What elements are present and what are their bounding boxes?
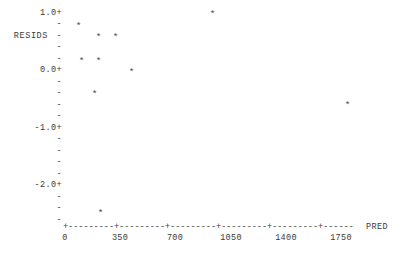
y-axis-tick-row-15: -2.0+ bbox=[0, 180, 62, 191]
data-point: * bbox=[344, 101, 351, 110]
y-axis-tick-label-1.0: 1.0+ bbox=[40, 8, 62, 19]
data-point: * bbox=[112, 33, 119, 42]
y-axis-tick-row-8: - bbox=[0, 100, 62, 111]
y-axis-tick-row-3: - bbox=[0, 42, 62, 53]
y-axis-tick-row-16: - bbox=[0, 192, 62, 203]
x-axis-tick-label-1050: 1050 bbox=[215, 233, 247, 243]
y-axis-tick-row-1: - bbox=[0, 19, 62, 30]
y-axis-tick-row-14: - bbox=[0, 169, 62, 180]
data-point: * bbox=[97, 209, 104, 218]
y-axis-tick-row-5: 0.0+ bbox=[0, 65, 62, 76]
y-axis-tick-row-4: - bbox=[0, 54, 62, 65]
y-axis-tick-row-18: - bbox=[0, 215, 62, 226]
data-point: * bbox=[128, 68, 135, 77]
data-point: * bbox=[75, 22, 82, 31]
y-axis-tick-mark: - bbox=[56, 157, 62, 168]
data-point: * bbox=[209, 10, 216, 19]
y-axis-tick-row-12: - bbox=[0, 146, 62, 157]
x-axis-tick-label-1400: 1400 bbox=[270, 233, 302, 243]
y-axis-tick-row-0: 1.0+ bbox=[0, 8, 62, 19]
y-axis-tick-row-10: -1.0+ bbox=[0, 123, 62, 134]
y-axis-tick-mark: - bbox=[56, 100, 62, 111]
y-axis-tick-mark: - bbox=[56, 169, 62, 180]
y-axis-tick-label-0.0: 0.0+ bbox=[40, 65, 62, 76]
y-axis-tick-label--2.0: -2.0+ bbox=[34, 180, 62, 191]
y-axis-tick-mark: - bbox=[56, 54, 62, 65]
y-axis-tick-mark: - bbox=[56, 192, 62, 203]
x-axis-tick-label-350: 350 bbox=[107, 233, 133, 243]
y-axis-tick-mark: - bbox=[56, 19, 62, 30]
y-axis-tick-row-11: - bbox=[0, 134, 62, 145]
y-axis-tick-label--1.0: -1.0+ bbox=[34, 123, 62, 134]
y-axis-tick-row-7: - bbox=[0, 88, 62, 99]
scatter-plot: 1.0+ - - - - 0.0+ - - - - -1.0+ - - - - … bbox=[0, 0, 405, 262]
y-axis-tick-mark: - bbox=[56, 42, 62, 53]
data-point: * bbox=[78, 57, 85, 66]
y-axis-tick-row-6: - bbox=[0, 77, 62, 88]
y-axis-tick-mark: - bbox=[56, 215, 62, 226]
y-axis-tick-mark: - bbox=[56, 146, 62, 157]
x-axis-tick-label-0: 0 bbox=[52, 233, 78, 243]
y-axis-tick-mark: - bbox=[56, 77, 62, 88]
y-axis-tick-mark: - bbox=[56, 88, 62, 99]
y-axis-tick-mark: - bbox=[56, 111, 62, 122]
x-axis-tick-label-1750: 1750 bbox=[325, 233, 357, 243]
data-point: * bbox=[91, 90, 98, 99]
y-axis-tick-row-17: - bbox=[0, 203, 62, 214]
y-axis-tick-row-9: - bbox=[0, 111, 62, 122]
y-axis-title: RESIDS bbox=[0, 31, 48, 42]
y-axis-tick-mark: - bbox=[56, 134, 62, 145]
data-point: * bbox=[95, 33, 102, 42]
x-axis-tick-label-700: 700 bbox=[162, 233, 188, 243]
y-axis-tick-mark: - bbox=[56, 203, 62, 214]
y-axis-tick-mark: - bbox=[56, 31, 62, 42]
x-axis-line: +---------+---------+---------+---------… bbox=[63, 222, 354, 232]
y-axis-tick-row-13: - bbox=[0, 157, 62, 168]
x-axis-title: PRED bbox=[366, 222, 388, 232]
data-point: * bbox=[95, 57, 102, 66]
